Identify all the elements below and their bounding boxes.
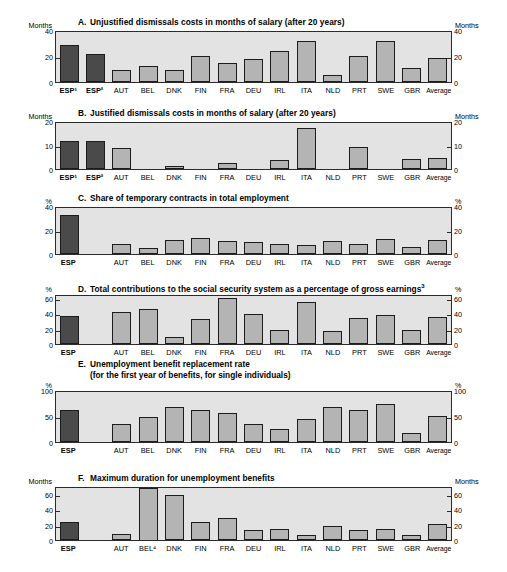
bar-slot (214, 123, 240, 169)
bar-slot (82, 488, 108, 540)
bar-slot (293, 123, 319, 169)
bar-slot (425, 32, 451, 82)
bar (323, 241, 342, 254)
y-tick-value: 50 (454, 414, 494, 422)
x-axis-label: FRA (214, 173, 240, 182)
x-axis-label: DEU (240, 544, 266, 553)
y-tick-label-left: 20 (13, 58, 53, 66)
plot-frame: 00202040406060 (55, 295, 452, 345)
x-axis-label: PRT (346, 173, 372, 182)
y-tick-value: 0 (13, 167, 53, 175)
bar (165, 70, 184, 82)
bar (270, 244, 289, 254)
panel-title-text: Maximum duration for unemployment benefi… (90, 473, 275, 483)
y-tick-value: 0 (454, 167, 494, 175)
y-tick-label-left: 40 (13, 315, 53, 323)
y-tick-value: 20 (454, 228, 494, 236)
y-tick-value: 40 (454, 507, 494, 515)
bar (60, 141, 79, 169)
x-axis-label: BEL (134, 86, 160, 95)
bar (112, 534, 131, 540)
y-tick-mark (56, 147, 60, 148)
y-tick-value: 20 (454, 523, 494, 531)
x-axis-labels: ESP¹ESP²AUTBELDNKFINFRADEUIRLITANLDPRTSW… (55, 86, 452, 95)
x-axis-label: BEL (134, 258, 160, 267)
bar (323, 75, 342, 82)
bar-slot (188, 32, 214, 82)
bar (218, 63, 237, 82)
x-axis-label: ITA (293, 446, 319, 455)
plot-frame: 0020204040 (55, 207, 452, 255)
y-tick-label-right: 40 (454, 32, 494, 40)
bar-slot (188, 392, 214, 442)
bar-slot (372, 296, 398, 344)
y-tick-value: 0 (13, 252, 53, 260)
x-axis-label: DEU (240, 258, 266, 267)
bar-slot (372, 392, 398, 442)
y-tick-value: 20 (454, 119, 494, 127)
x-axis-label: SWE (373, 544, 399, 553)
panel-title: B.Justified dismissals costs in months o… (78, 108, 336, 119)
x-axis-label: GBR (399, 544, 425, 553)
bar-series (56, 32, 451, 82)
bar-slot (267, 392, 293, 442)
bar-slot (398, 488, 424, 540)
y-tick-value: 20 (454, 327, 494, 335)
x-axis-label: AUT (108, 86, 134, 95)
x-axis-label: ITA (293, 258, 319, 267)
x-axis-label: ITA (293, 544, 319, 553)
x-axis-label: ITA (293, 86, 319, 95)
bar-slot (267, 296, 293, 344)
x-axis-label: BEL (134, 446, 160, 455)
x-axis-label: DNK (161, 258, 187, 267)
bar-slot (372, 32, 398, 82)
x-axis-label: DNK (161, 446, 187, 455)
plot-area: 0020204040 (55, 31, 452, 83)
x-axis-label: IRL (267, 173, 293, 182)
bar (165, 166, 184, 169)
bar-slot (161, 32, 187, 82)
y-tick-value: 20 (13, 523, 53, 531)
y-tick-value: 0 (13, 440, 53, 448)
x-axis-label: NLD (320, 173, 346, 182)
bar (112, 424, 131, 442)
bar-slot (240, 392, 266, 442)
y-tick-mark (447, 232, 451, 233)
x-axis-label: AUT (108, 258, 134, 267)
bar-slot (425, 296, 451, 344)
y-tick-label-right: 40 (454, 208, 494, 216)
x-axis-label: DEU (240, 173, 266, 182)
y-tick-label-right: 20 (454, 331, 494, 339)
x-axis-label: DEU (240, 446, 266, 455)
y-tick-label-left: 40 (13, 511, 53, 519)
bar-slot (372, 123, 398, 169)
bar-slot (56, 32, 82, 82)
bar (60, 410, 79, 443)
y-tick-label-right: 20 (454, 123, 494, 131)
bar-slot (82, 208, 108, 254)
x-axis-label: FIN (187, 544, 213, 553)
y-tick-label-left: 40 (13, 32, 53, 40)
bar-slot (82, 296, 108, 344)
y-tick-label-right: 60 (454, 496, 494, 504)
x-axis-label: ESP² (81, 86, 107, 95)
y-tick-label-left: 20 (13, 123, 53, 131)
bar (349, 410, 368, 443)
bar-slot (319, 123, 345, 169)
x-axis-label: SWE (373, 86, 399, 95)
bar (428, 240, 447, 254)
y-tick-value: 20 (454, 54, 494, 62)
bar (60, 522, 79, 540)
bar-slot (293, 392, 319, 442)
y-tick-value: 60 (13, 296, 53, 304)
bar-slot (188, 488, 214, 540)
bar-slot (346, 488, 372, 540)
bar (139, 66, 158, 82)
y-tick-value: 0 (454, 80, 494, 88)
plot-area: 0010102020 (55, 122, 452, 170)
x-axis-label: Average (426, 258, 452, 267)
bar-slot (135, 488, 161, 540)
x-axis-label: PRT (346, 544, 372, 553)
chart-panel-c: %%C.Share of temporary contracts in tota… (0, 183, 507, 272)
y-tick-value: 40 (454, 204, 494, 212)
